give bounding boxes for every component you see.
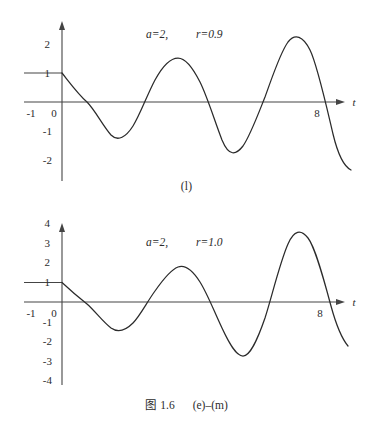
y-tick-label-l-3: -2 (43, 154, 52, 166)
y-axis-arrow-m (59, 223, 65, 232)
x-tick-label-m-2: 8 (317, 307, 323, 319)
x-tick-label-m-0: -1 (26, 307, 35, 319)
y-tick-label-m-3: 1 (45, 276, 51, 288)
annotation-r-m: r=1.0 (196, 236, 223, 248)
y-tick-label-l-0: 2 (45, 38, 51, 50)
chart-svg-m: 4 3 2 1 -1 -2 -3 -4 -1 0 8 t a=2, r=1.0 (0, 210, 373, 395)
caption-range: (e)–(m) (193, 399, 228, 411)
caption-prefix: 图 (145, 399, 156, 411)
x-axis-arrow-m (336, 299, 345, 305)
x-axis-arrow-l (336, 99, 345, 105)
annotation-r-l: r=0.9 (196, 28, 223, 40)
x-tick-label-l-1: 0 (51, 107, 57, 119)
figure-1-6: 2 1 -1 -2 -1 0 8 t a=2, r=0.9 (l) (0, 0, 373, 433)
y-tick-label-m-5: -2 (43, 335, 52, 347)
y-tick-label-m-2: 2 (45, 256, 51, 268)
y-tick-label-m-6: -3 (43, 355, 53, 367)
annotation-a-l: a=2, (146, 28, 168, 41)
x-axis-name-l: t (352, 96, 356, 108)
chart-panel-l: 2 1 -1 -2 -1 0 8 t a=2, r=0.9 (l) (0, 0, 373, 210)
chart-panel-m: 4 3 2 1 -1 -2 -3 -4 -1 0 8 t a=2, r=1.0 … (0, 210, 373, 395)
y-axis-arrow-l (59, 21, 65, 30)
response-curve-m (62, 232, 348, 356)
x-tick-label-m-1: 0 (51, 307, 57, 319)
y-tick-label-l-1: 1 (45, 67, 51, 79)
y-tick-label-m-0: 4 (45, 217, 51, 229)
sublabel-l: (l) (0, 180, 373, 192)
response-curve-l (62, 37, 351, 170)
y-tick-label-m-1: 3 (45, 237, 51, 249)
chart-svg-l: 2 1 -1 -2 -1 0 8 t a=2, r=0.9 (0, 0, 373, 210)
x-tick-label-l-0: -1 (26, 107, 35, 119)
x-axis-name-m: t (352, 296, 356, 308)
figure-caption: 图1.6(e)–(m) (0, 396, 373, 412)
y-tick-label-l-2: -1 (43, 125, 52, 137)
x-tick-label-l-2: 8 (314, 107, 320, 119)
caption-number: 1.6 (160, 399, 174, 411)
annotation-a-m: a=2, (146, 236, 168, 249)
y-tick-label-m-7: -4 (43, 374, 53, 386)
